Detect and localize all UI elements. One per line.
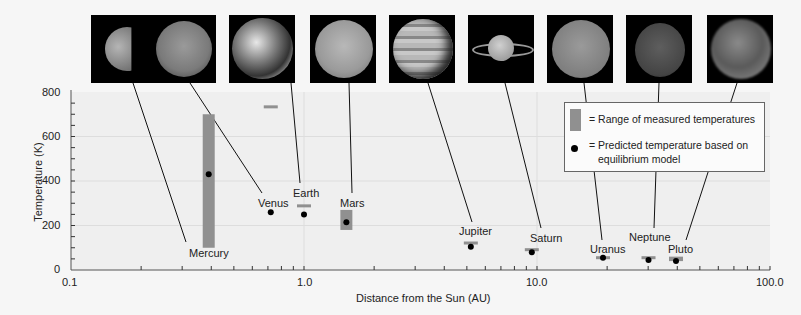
x-tick-1.0: 1.0 (297, 276, 312, 288)
label-mars: Mars (340, 197, 364, 209)
pluto-image (707, 15, 773, 83)
x-axis-title: Distance from the Sun (AU) (356, 292, 491, 304)
predicted-dot-uranus (600, 255, 606, 261)
label-jupiter: Jupiter (459, 225, 492, 237)
x-tick-10.0: 10.0 (526, 276, 547, 288)
label-saturn: Saturn (530, 232, 562, 244)
predicted-dot-mercury (206, 171, 212, 177)
legend-range-label: = Range of measured temperatures (589, 113, 755, 125)
x-tick-100.0: 100.0 (756, 276, 784, 288)
predicted-dot-venus (268, 209, 274, 215)
chart-figure: Temperature (K) Distance from the Sun (A… (0, 0, 801, 315)
y-tick-600: 600 (42, 130, 60, 142)
label-pluto: Pluto (668, 243, 693, 255)
x-tick-0.1: 0.1 (62, 276, 77, 288)
predicted-dot-pluto (673, 258, 679, 264)
uranus-image (547, 15, 613, 83)
y-tick-200: 200 (42, 219, 60, 231)
label-venus: Venus (258, 197, 289, 209)
neptune-image (626, 15, 692, 83)
legend-predicted-line1: = Predicted temperature based on (589, 139, 748, 151)
legend-predicted-line2: equilibrium model (589, 153, 680, 165)
earth-image (229, 15, 295, 83)
venus-image (150, 15, 216, 83)
y-tick-400: 400 (42, 174, 60, 186)
mercury-image (91, 15, 157, 83)
predicted-dot-earth (301, 211, 307, 217)
legend-predicted-label: = Predicted temperature based on equilib… (589, 138, 748, 166)
y-tick-800: 800 (42, 86, 60, 98)
range-bar-earth (297, 204, 311, 207)
jupiter-image (389, 15, 455, 83)
saturn-image (468, 15, 534, 83)
predicted-dot-neptune (646, 257, 652, 263)
predicted-dot-saturn (529, 249, 535, 255)
label-uranus: Uranus (590, 243, 625, 255)
label-neptune: Neptune (629, 231, 671, 243)
predicted-dot-mars (343, 219, 349, 225)
label-earth: Earth (293, 187, 319, 199)
y-tick-0: 0 (54, 263, 60, 275)
predicted-dot-icon (571, 145, 578, 152)
predicted-dot-jupiter (468, 244, 474, 250)
range-bar-venus (264, 105, 278, 108)
range-bar-mercury (203, 114, 215, 248)
range-bar-swatch-icon (570, 109, 581, 131)
legend: = Range of measured temperatures = Predi… (564, 102, 765, 172)
label-mercury: Mercury (189, 247, 229, 259)
mars-image (310, 15, 376, 83)
